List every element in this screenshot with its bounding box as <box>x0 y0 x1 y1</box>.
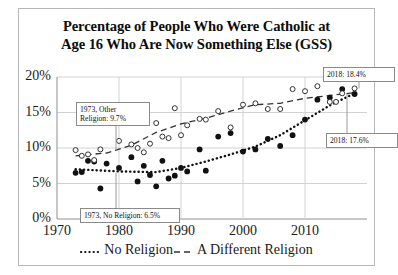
point-0-4 <box>98 186 104 192</box>
x-axis-tick-2: 1990 <box>151 223 211 239</box>
point-1-4 <box>98 147 103 152</box>
point-1-7 <box>135 146 140 151</box>
x-axis-tick-3: 2000 <box>213 223 273 239</box>
point-0-27 <box>315 97 321 103</box>
y-axis-tick-3: 15% <box>19 104 51 120</box>
point-0-23 <box>265 136 271 142</box>
point-1-5 <box>117 138 122 143</box>
annotation-norel-2018: 2018: 17.6% <box>326 133 398 148</box>
point-1-10 <box>154 121 159 126</box>
point-1-22 <box>265 107 270 112</box>
point-0-18 <box>203 168 209 174</box>
point-1-0 <box>73 148 78 153</box>
point-0-17 <box>197 147 203 153</box>
point-0-15 <box>178 165 184 171</box>
point-1-30 <box>352 86 357 91</box>
point-1-16 <box>197 116 202 121</box>
x-axis-tick-4: 2010 <box>275 223 335 239</box>
point-1-6 <box>129 142 134 147</box>
point-1-21 <box>253 101 258 106</box>
point-0-14 <box>172 173 178 179</box>
point-1-2 <box>86 152 91 157</box>
x-axis-tick-0: 1970 <box>27 223 87 239</box>
point-0-24 <box>277 143 283 149</box>
point-0-12 <box>160 158 166 164</box>
point-1-19 <box>228 125 233 130</box>
point-0-10 <box>147 172 153 178</box>
legend-entry-no-religion: No Religion <box>80 241 173 258</box>
point-0-9 <box>141 163 147 169</box>
legend-label-no-religion: No Religion <box>104 242 173 258</box>
annotation-other-1973: 1973, Other Religion: 9.7% <box>76 102 150 126</box>
point-1-1 <box>79 153 84 158</box>
point-1-28 <box>334 99 339 104</box>
point-0-30 <box>352 91 358 97</box>
point-0-2 <box>85 158 91 164</box>
annotation-other-1973-line-1: 1973, Other <box>80 105 146 114</box>
point-1-29 <box>340 91 345 96</box>
chart-container: Percentage of People Who Were Catholic a… <box>18 8 375 266</box>
annotation-norel-1973: 1973, No Religion: 6.5% <box>80 208 180 223</box>
point-1-26 <box>315 84 320 89</box>
point-0-20 <box>228 130 234 136</box>
y-axis-tick-2: 10% <box>19 139 51 155</box>
legend-entry-different-religion: A Different Religion <box>173 241 313 258</box>
point-1-20 <box>241 102 246 107</box>
y-axis-tick-1: 5% <box>19 175 51 191</box>
point-0-19 <box>215 134 221 140</box>
point-1-25 <box>303 89 308 94</box>
point-1-15 <box>185 123 190 128</box>
point-1-13 <box>172 106 177 111</box>
point-0-1 <box>79 169 85 175</box>
chart-legend: No Religion A Different Religion <box>19 241 374 258</box>
point-1-14 <box>179 133 184 138</box>
point-0-21 <box>240 149 246 155</box>
annotation-other-2018: 2018: 18.4% <box>323 67 395 82</box>
point-1-23 <box>278 107 283 112</box>
point-0-5 <box>104 161 110 167</box>
point-1-12 <box>166 136 171 141</box>
point-1-3 <box>92 158 97 163</box>
point-0-22 <box>253 147 259 153</box>
annotation-norel-2018-line-1: 2018: 17.6% <box>330 136 394 145</box>
point-0-16 <box>184 169 190 175</box>
point-1-24 <box>290 87 295 92</box>
legend-label-different-religion: A Different Religion <box>197 242 313 258</box>
point-0-13 <box>166 176 172 182</box>
legend-swatch-dashed-icon <box>173 245 195 255</box>
point-1-18 <box>216 109 221 114</box>
annotation-other-1973-line-2: Religion: 9.7% <box>80 114 146 123</box>
annotation-other-2018-line-1: 2018: 18.4% <box>327 70 391 79</box>
point-0-11 <box>153 183 159 189</box>
y-axis-tick-4: 20% <box>19 68 51 84</box>
point-0-25 <box>290 132 296 138</box>
legend-swatch-dotted-icon <box>80 245 102 255</box>
point-0-0 <box>73 170 79 176</box>
point-1-8 <box>141 150 146 155</box>
point-1-17 <box>203 117 208 122</box>
x-axis-tick-1: 1980 <box>89 223 149 239</box>
point-1-11 <box>160 134 165 139</box>
point-1-9 <box>148 141 153 146</box>
point-1-27 <box>327 99 332 104</box>
point-0-7 <box>129 154 135 160</box>
point-0-8 <box>135 179 141 185</box>
point-0-6 <box>116 165 122 171</box>
annotation-norel-1973-line-1: 1973, No Religion: 6.5% <box>84 211 176 220</box>
point-0-26 <box>302 117 308 123</box>
